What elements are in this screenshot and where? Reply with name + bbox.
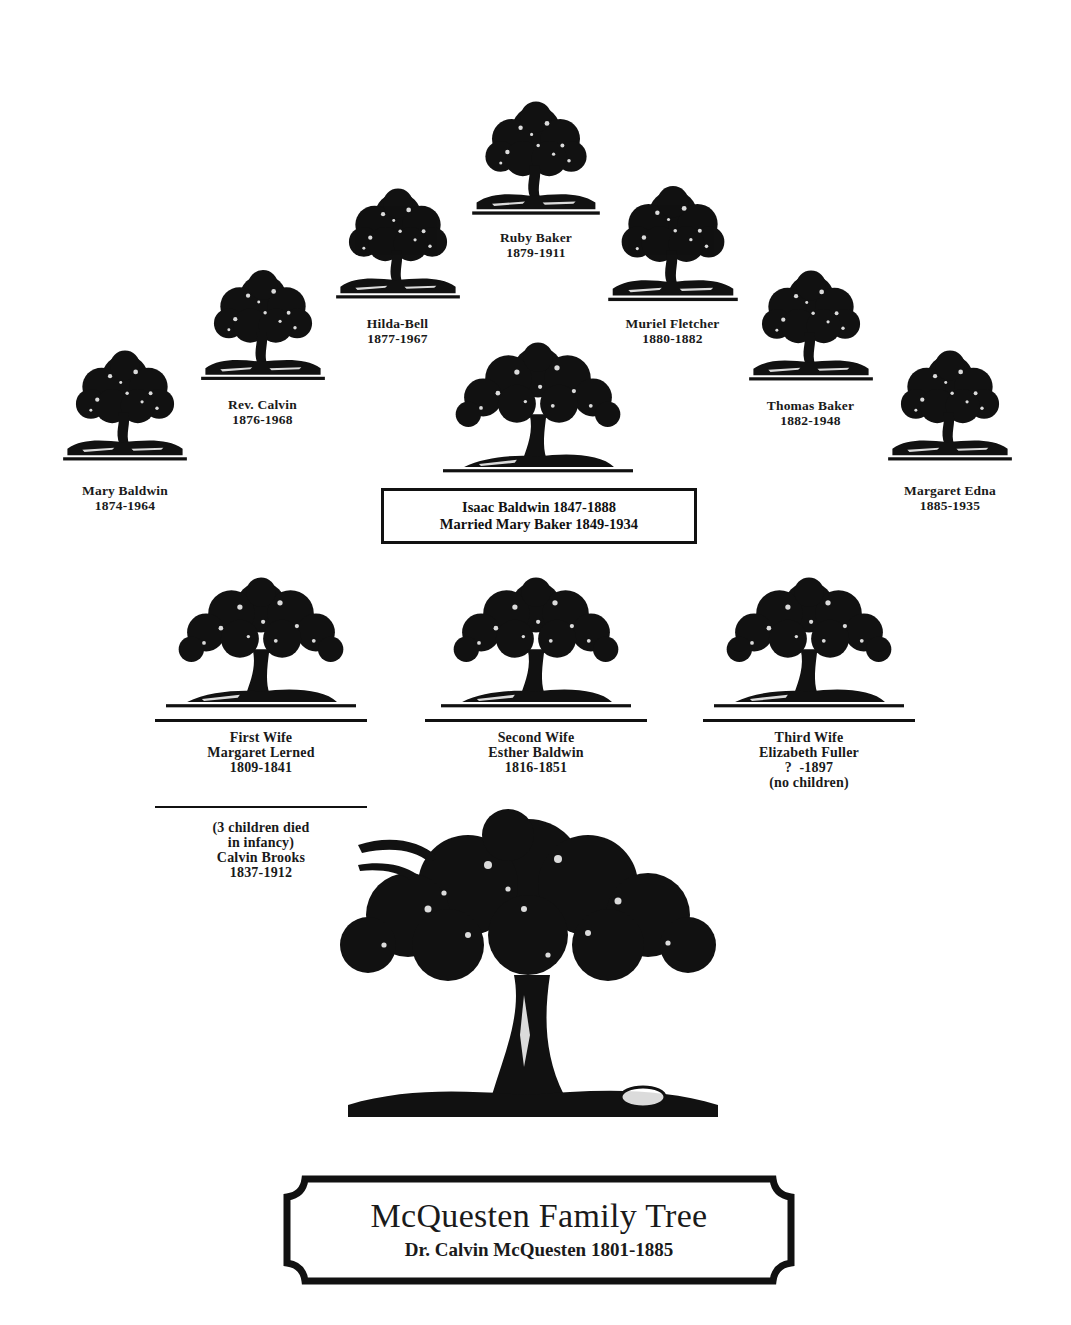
child-name: Mary Baldwin	[55, 483, 195, 498]
large-tree-icon	[318, 805, 738, 1135]
tree-icon	[886, 327, 1014, 483]
ground-line	[155, 719, 367, 722]
child-name: Muriel Fletcher	[600, 316, 745, 331]
couple-line-2: Married Mary Baker 1849-1934	[384, 516, 694, 533]
tree-icon	[61, 327, 189, 483]
page-subtitle: Dr. Calvin McQuesten 1801-1885	[283, 1239, 795, 1261]
tree-icon	[199, 252, 327, 397]
wife-label: Third Wife	[703, 730, 915, 745]
tree-icon	[747, 252, 875, 398]
child-node-hilda-bell: Hilda-Bell 1877-1967	[330, 170, 465, 346]
page-title: McQuesten Family Tree	[283, 1197, 795, 1235]
child-name: Margaret Edna	[880, 483, 1020, 498]
wife-name: Elizabeth Fuller	[703, 745, 915, 760]
patriarch-tree	[318, 805, 738, 1135]
wife-dates: 1809-1841	[155, 760, 367, 775]
tree-icon	[334, 170, 462, 316]
child-node-ruby-baker: Ruby Baker 1879-1911	[466, 85, 606, 260]
child-name: Ruby Baker	[466, 230, 606, 245]
ground-line	[425, 719, 647, 722]
wife-name: Esther Baldwin	[425, 745, 647, 760]
isaac-baldwin-tree	[438, 330, 638, 488]
tree-icon	[606, 170, 740, 316]
couple-line-1: Isaac Baldwin 1847-1888	[384, 499, 694, 516]
tree-icon	[166, 565, 356, 723]
child-name: Thomas Baker	[743, 398, 878, 413]
wife-node-second: Second Wife Esther Baldwin 1816-1851	[425, 565, 647, 775]
couple-box: Isaac Baldwin 1847-1888 Married Mary Bak…	[381, 488, 697, 544]
wife-node-third: Third Wife Elizabeth Fuller ? -1897 (no …	[703, 565, 915, 790]
child-node-margaret-edna: Margaret Edna 1885-1935	[880, 327, 1020, 513]
child-name: Rev. Calvin	[195, 397, 330, 412]
tree-icon	[470, 85, 602, 230]
child-node-mary-baldwin: Mary Baldwin 1874-1964	[55, 327, 195, 513]
child-dates: 1882-1948	[743, 413, 878, 428]
wife-name: Margaret Lerned	[155, 745, 367, 760]
child-dates: 1885-1935	[880, 498, 1020, 513]
child-node-rev-calvin: Rev. Calvin 1876-1968	[195, 252, 330, 427]
child-node-muriel-fletcher: Muriel Fletcher 1880-1882	[600, 170, 745, 346]
wife-node-first: First Wife Margaret Lerned 1809-1841	[155, 565, 367, 775]
wife-label: First Wife	[155, 730, 367, 745]
child-node-thomas-baker: Thomas Baker 1882-1948	[743, 252, 878, 428]
wife-dates: 1816-1851	[425, 760, 647, 775]
child-dates: 1874-1964	[55, 498, 195, 513]
wife-dates: ? -1897	[703, 760, 915, 775]
ground-line	[703, 719, 915, 722]
child-name: Hilda-Bell	[330, 316, 465, 331]
wife-note: (no children)	[703, 775, 915, 790]
wife-label: Second Wife	[425, 730, 647, 745]
child-dates: 1879-1911	[466, 245, 606, 260]
tree-icon	[443, 330, 633, 488]
tree-icon	[441, 565, 631, 723]
tree-icon	[714, 565, 904, 723]
child-dates: 1876-1968	[195, 412, 330, 427]
title-plaque: McQuesten Family Tree Dr. Calvin McQuest…	[283, 1175, 795, 1285]
